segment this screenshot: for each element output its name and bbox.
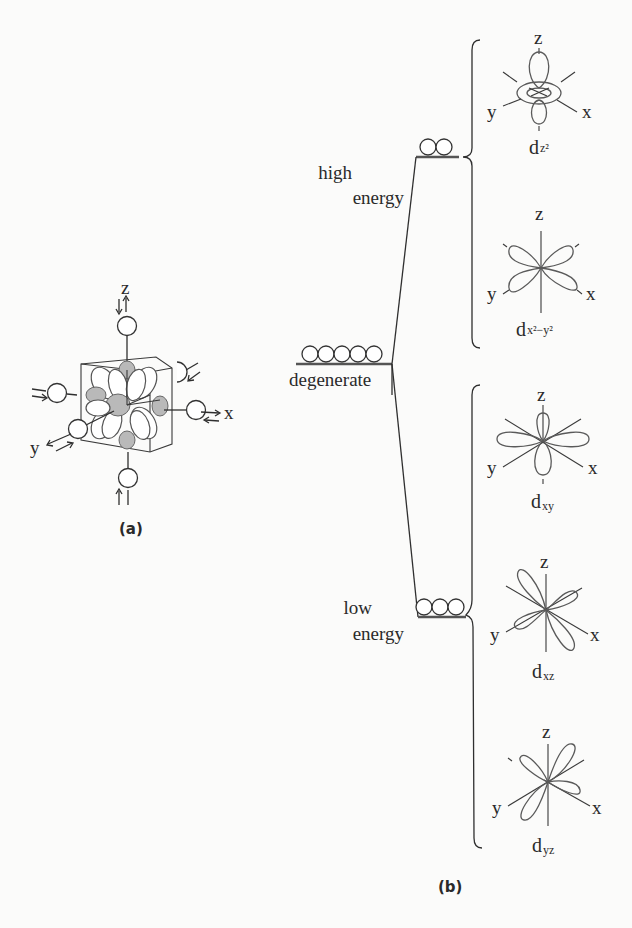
axis-label-z: z [540,551,548,572]
axis-label-x: x [590,624,600,645]
low-energy-label-line1: low [344,597,373,618]
low-energy-orbitals [416,599,464,615]
orbital-label-dxy: dxy [531,490,554,513]
arrow-pair-left-icon [32,389,47,401]
axis-label-x: x [582,101,592,122]
panel-b-energy-diagram: high energy degenerate low energy [289,27,602,896]
degenerate-orbitals [302,346,382,362]
low-energy-label-line2: energy [353,623,405,644]
ligand-right [187,401,206,420]
axis-label-y: y [492,797,502,818]
ligand-front [69,420,88,439]
arrow-pair-top-icon [116,296,129,314]
axis-label-x: x [224,402,234,423]
axis-label-y: y [487,457,497,478]
axis-label-y: y [487,283,497,304]
orbital-dx2-y2: z y x dx²−y² [487,203,596,340]
axis-label-y: y [30,437,40,458]
axis-label-x: x [586,283,596,304]
axis-label-z: z [542,721,550,742]
panel-a-octahedral-complex: z [30,277,234,538]
axis-label-z: z [121,277,129,298]
axis-label-z: z [534,27,542,48]
orbital-dxy: z y x dxy [487,384,598,513]
orbital-label-dx2-y2: dx²−y² [516,318,553,340]
degenerate-label: degenerate [289,369,371,390]
panel-b-label: (b) [438,878,462,896]
arrow-pair-right-icon [201,410,220,423]
orbital-label-dz2: dz² [529,136,549,158]
axis-label-z: z [537,384,545,405]
axis-label-y: y [487,101,497,122]
arrow-pair-front-icon [47,434,73,451]
arrow-pair-back-right-icon [186,363,200,381]
orbital-label-dyz: dyz [532,834,554,857]
orbital-label-dxz: dxz [532,660,554,683]
axis-label-x: x [588,457,598,478]
crystal-field-diagram: z [0,0,632,928]
split-line-down [392,364,418,617]
axis-label-y: y [490,624,500,645]
high-energy-orbitals [420,139,452,155]
axis-label-x: x [592,797,602,818]
brace-high [463,40,480,348]
panel-a-label: (a) [119,520,143,538]
arrow-pair-bottom-icon [116,489,128,505]
high-energy-label-line1: high [318,162,352,183]
orbital-dz2: z y x dz² [487,27,592,158]
orbital-dyz: z y x dyz [492,721,602,857]
axis-label-z: z [535,203,543,224]
ligand-left [48,384,67,403]
ligand-back-right [177,362,187,382]
ligand-bottom [119,469,138,488]
orbital-dxz: z y x dxz [490,551,600,683]
brace-low [466,385,482,848]
high-energy-label-line2: energy [353,187,405,208]
ligand-top [118,317,137,336]
d-orbital-lobes-in-cube [86,361,168,449]
